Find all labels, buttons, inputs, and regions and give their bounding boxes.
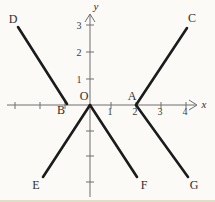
point-label-E: E: [32, 179, 39, 191]
y-tick-label-1: 1: [77, 75, 82, 85]
page-edge-strip: [0, 200, 215, 202]
segment-AC: [136, 28, 187, 105]
point-label-D: D: [9, 13, 18, 25]
segment-DB: [18, 27, 67, 104]
x-tick-label-3: 3: [158, 107, 163, 117]
plot-svg: [0, 0, 215, 202]
x-axis-label: x: [202, 99, 207, 110]
point-label-A: A: [128, 90, 137, 102]
y-tick-label-3: 3: [77, 21, 82, 31]
point-label-B: B: [57, 104, 65, 116]
point-label-O: O: [80, 90, 89, 102]
coordinate-plane-figure: x y 1234321DCBOAEFG: [0, 0, 215, 202]
point-label-G: G: [190, 179, 199, 191]
y-axis-label: y: [94, 1, 99, 12]
x-tick-label-4: 4: [183, 107, 188, 117]
segment-OF: [90, 105, 137, 177]
point-label-C: C: [188, 12, 196, 24]
segment-EO: [43, 105, 90, 177]
x-tick-label-1: 1: [108, 107, 113, 117]
point-label-F: F: [141, 179, 148, 191]
y-tick-label-2: 2: [77, 48, 82, 58]
x-tick-label-2: 2: [133, 107, 138, 117]
